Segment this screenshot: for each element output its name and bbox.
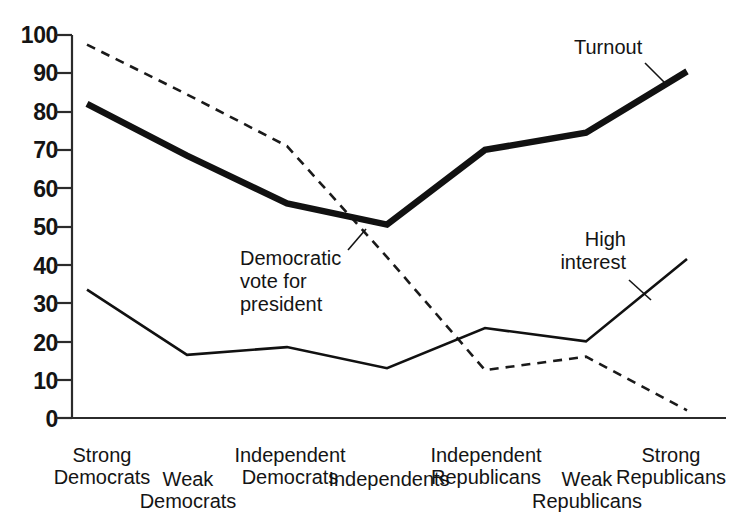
y-axis-ticks [56, 35, 72, 418]
x-axis-label-strong-republicans: Strong Republicans [601, 444, 741, 489]
series-line-high-interest [87, 259, 687, 368]
leader-line-turnout [645, 63, 668, 86]
annotation-high-interest: High interest [500, 228, 626, 274]
axis-lines [72, 35, 726, 418]
leader-line-democratic-vote [348, 229, 366, 250]
annotation-democratic-vote: Democratic vote for president [240, 247, 341, 315]
annotation-turnout: Turnout [574, 36, 642, 59]
series-line-turnout [87, 71, 687, 224]
